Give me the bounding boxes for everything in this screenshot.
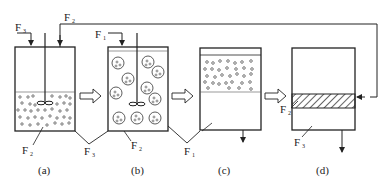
stream-label: F — [22, 144, 28, 156]
split-line-f3 — [75, 131, 108, 144]
stream-label: F — [294, 136, 300, 148]
svg-text:2: 2 — [288, 110, 291, 116]
stream-label: F — [64, 11, 70, 23]
svg-text:2: 2 — [30, 151, 33, 157]
stream-label: F — [84, 145, 90, 157]
svg-text:1: 1 — [192, 152, 195, 158]
caption-d: (d) — [316, 164, 329, 177]
hatched-layer — [292, 94, 355, 108]
caption-c: (c) — [218, 164, 231, 177]
stream-label: F — [131, 139, 137, 151]
stream-label: F — [15, 21, 21, 33]
caption-b: (b) — [131, 164, 144, 177]
flow-arrow-a-b — [80, 89, 101, 103]
svg-text:3: 3 — [92, 152, 95, 158]
particles-c — [204, 60, 254, 91]
svg-text:3: 3 — [23, 28, 26, 34]
panel-c: (c) — [200, 48, 261, 177]
process-diagram: F 2 F 3 F 2 (a) — [0, 0, 391, 189]
vessel-d — [292, 48, 355, 130]
caption-a: (a) — [38, 164, 51, 177]
stream-label: F — [184, 145, 190, 157]
stream-label: F — [280, 103, 286, 115]
stream-label: F — [95, 28, 101, 40]
svg-text:2: 2 — [72, 18, 75, 24]
svg-text:1: 1 — [103, 35, 106, 41]
svg-text:2: 2 — [139, 146, 142, 152]
panel-d: F 2 F 3 (d) — [280, 48, 355, 177]
split-line-f1 — [168, 126, 200, 143]
panel-a: F 3 F 2 (a) — [15, 21, 75, 177]
svg-text:3: 3 — [302, 143, 305, 149]
panel-b: F 1 F 2 (b) — [95, 28, 168, 177]
label-f2-top: F 2 — [64, 11, 75, 24]
particles-a — [17, 95, 71, 126]
flow-arrow-c-d — [265, 89, 286, 103]
flow-arrow-b-c — [172, 89, 193, 103]
